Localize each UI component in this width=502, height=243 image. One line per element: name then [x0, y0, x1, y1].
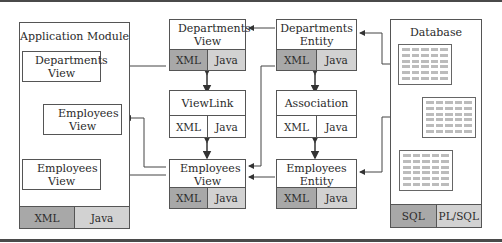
employees-entity-object-box: Employees Entity Oblect XML Java [276, 159, 357, 209]
viewlink-java: Java [207, 116, 245, 137]
employees-view-java: Java [207, 188, 245, 208]
viewlink-box: ViewLink XML Java [169, 90, 246, 138]
employees-eo-xml: XML [277, 188, 316, 208]
am-employees-view-nested: Employees View [43, 104, 122, 135]
departments-eo-java: Java [316, 50, 356, 70]
departments-view-xml: XML [170, 50, 207, 70]
am-departments-view-label: Departments View [23, 54, 100, 80]
departments-eo-xml: XML [277, 50, 316, 70]
departments-entity-object-box: Departments Entity Object XML Java [276, 19, 357, 71]
database-plsql-cell: PL/SQL [436, 205, 482, 227]
departments-view-box: Departments View XML Java [169, 19, 246, 71]
employees-view-box: Employees View XML Java [169, 159, 246, 209]
database-title: Database [391, 26, 481, 39]
am-departments-view: Departments View [22, 51, 101, 82]
association-java: Java [316, 116, 356, 137]
database-sql-cell: SQL [391, 205, 436, 227]
application-module-title: Application Module [20, 30, 129, 43]
database-table-icon-1 [398, 44, 452, 85]
viewlink-title: ViewLink [170, 97, 245, 110]
viewlink-xml: XML [170, 116, 207, 137]
departments-view-title: Departments View [170, 22, 245, 48]
association-xml: XML [277, 116, 316, 137]
am-xml-cell: XML [20, 207, 74, 228]
database-table-icon-2 [422, 97, 476, 138]
employees-eo-java: Java [316, 188, 356, 208]
employees-view-title: Employees View [170, 162, 245, 188]
am-employees-view-nested-label: Employees View [44, 107, 121, 133]
association-box: Association XML Java [276, 90, 357, 138]
employees-view-xml: XML [170, 188, 207, 208]
association-title: Association [277, 97, 356, 110]
database-table-icon-3 [399, 150, 453, 191]
departments-view-java: Java [207, 50, 245, 70]
am-java-cell: Java [74, 207, 129, 228]
am-employees-view: Employees View [22, 159, 101, 190]
am-employees-view-label: Employees View [23, 162, 100, 188]
